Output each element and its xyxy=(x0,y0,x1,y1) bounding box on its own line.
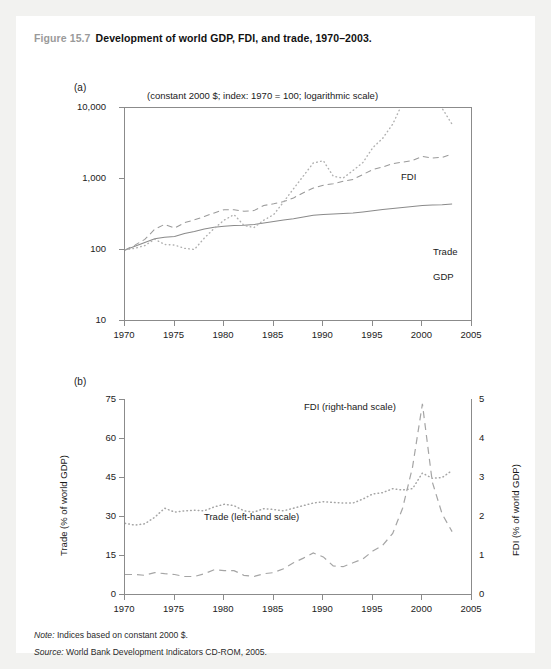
panel-b-tickmark-x-1985 xyxy=(273,595,274,600)
panel-b-xtick-2000: 2000 xyxy=(401,603,441,614)
figure-card: Figure 15.7Development of world GDP, FDI… xyxy=(16,16,535,653)
panel-b-ytick-right-3: 3 xyxy=(479,471,503,482)
panel-b-y-right-title: FDI (% of world GDP) xyxy=(510,464,521,556)
panel-b-ytick-left-15: 15 xyxy=(72,549,116,560)
panel-b-tickmark-x-1980 xyxy=(223,595,224,600)
panel-b-xtick-1980: 1980 xyxy=(203,603,243,614)
panel-b-xtick-1985: 1985 xyxy=(253,603,293,614)
panel-b-ytick-left-30: 30 xyxy=(72,510,116,521)
panel-b-tickmark-x-1995 xyxy=(372,595,373,600)
panel-b: (b) Trade (% of world GDP) FDI (% of wor… xyxy=(16,16,535,616)
panel-b-plot-area xyxy=(124,399,472,595)
panel-b-series-svg xyxy=(125,399,472,594)
panel-b-label-fdi: FDI (right-hand scale) xyxy=(304,401,396,412)
panel-b-xtick-1970: 1970 xyxy=(104,603,144,614)
panel-b-y-left-title: Trade (% of world GDP) xyxy=(58,455,69,556)
panel-b-ytick-left-60: 60 xyxy=(72,432,116,443)
panel-b-ytick-right-1: 1 xyxy=(479,549,503,560)
panel-b-ytick-right-2: 2 xyxy=(479,510,503,521)
panel-b-tickmark-x-1990 xyxy=(322,595,323,600)
panel-b-xtick-1990: 1990 xyxy=(302,603,342,614)
figure-source: Source: World Bank Development Indicator… xyxy=(34,647,267,657)
panel-b-tickmark-x-1975 xyxy=(174,595,175,600)
panel-b-label-trade: Trade (left-hand scale) xyxy=(204,511,299,522)
panel-b-ytick-left-0: 0 xyxy=(72,588,116,599)
panel-b-tickmark-x-2000 xyxy=(421,595,422,600)
panel-b-xtick-1995: 1995 xyxy=(352,603,392,614)
series-fdi-b-line xyxy=(125,404,452,577)
panel-b-ytick-right-5: 5 xyxy=(479,393,503,404)
figure-note: Note: Indices based on constant 2000 $. xyxy=(34,630,188,640)
panel-b-ytick-right-4: 4 xyxy=(479,432,503,443)
figure-note-text: Indices based on constant 2000 $. xyxy=(57,630,188,640)
figure-note-prefix: Note: xyxy=(34,630,55,640)
panel-b-ytick-left-75: 75 xyxy=(72,393,116,404)
panel-b-tickmark-x-1970 xyxy=(124,595,125,600)
panel-b-ytick-right-0: 0 xyxy=(479,588,503,599)
panel-b-ytick-left-45: 45 xyxy=(72,471,116,482)
figure-source-text: World Bank Development Indicators CD-ROM… xyxy=(66,647,267,657)
panel-b-xtick-1975: 1975 xyxy=(154,603,194,614)
panel-b-xtick-2005: 2005 xyxy=(451,603,491,614)
panel-b-tickmark-x-2005 xyxy=(471,595,472,600)
panel-b-letter: (b) xyxy=(74,376,86,387)
figure-source-prefix: Source: xyxy=(34,647,64,657)
